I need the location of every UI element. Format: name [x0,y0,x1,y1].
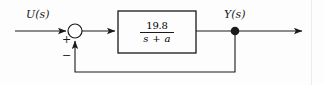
transfer-function-numerator: 19.8 [143,21,170,32]
input-signal-label: U(s) [26,9,50,20]
transfer-function-denominator: s + a [140,33,173,44]
summing-junction-plus-sign: + [62,34,71,45]
summing-junction-minus-sign: − [62,50,71,61]
output-signal-label: Y(s) [224,9,246,20]
block-diagram-figure: U(s) Y(s) + − 19.8 s + a [0,0,324,85]
transfer-function-fraction: 19.8 s + a [140,21,173,44]
plant-transfer-function: 19.8 s + a [118,11,196,53]
page-edge-artifact [311,0,312,85]
